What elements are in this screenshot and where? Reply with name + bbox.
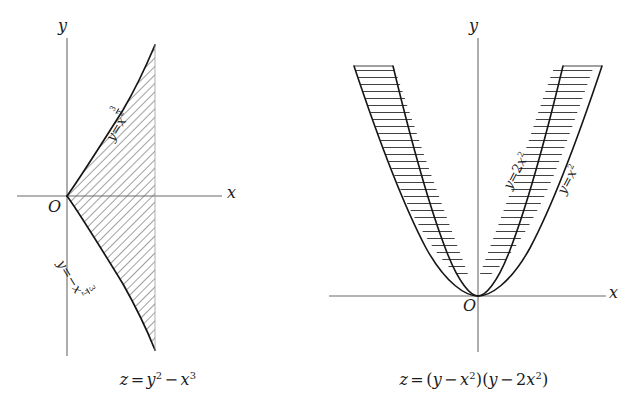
caption-coefficient: 2 [516, 370, 526, 389]
caption-term-2: x [460, 370, 469, 389]
caption-term-3: y [489, 370, 498, 389]
left-origin-label: O [48, 199, 61, 215]
caption-minus: − [162, 370, 180, 389]
caption-term-4: x [526, 370, 535, 389]
caption-exponent-2: 3 [190, 370, 197, 381]
left-x-axis-label: x [227, 185, 236, 201]
right-x-axis-label: x [609, 285, 618, 301]
right-plot-canvas [316, 0, 632, 418]
figure-pair: y x O y=x32 y=−x32 z=y2−x3 [0, 0, 632, 418]
right-shaded-region-left-branch [346, 60, 486, 290]
figure-left: y x O y=x32 y=−x32 z=y2−x3 [0, 0, 316, 418]
right-y-axis-label: y [469, 18, 478, 34]
right-origin-label: O [463, 298, 476, 314]
caption-close-paren-2: ) [542, 370, 548, 389]
caption-term-1: y [147, 370, 156, 389]
figure-right: y x O y=2x2 y=x2 z=(y−x2)(y−2x2) [316, 0, 632, 418]
left-figure-caption: z=y2−x3 [0, 372, 316, 388]
left-y-axis-label: y [58, 18, 67, 34]
left-shaded-region [60, 40, 165, 360]
caption-equals: = [408, 370, 426, 389]
caption-term-2: x [180, 370, 189, 389]
caption-term-1: y [433, 370, 442, 389]
right-figure-caption: z=(y−x2)(y−2x2) [316, 372, 632, 388]
caption-equals: = [128, 370, 146, 389]
right-shaded-region-right-branch [466, 60, 606, 290]
caption-minus-1: − [442, 370, 460, 389]
caption-minus-2: − [498, 370, 516, 389]
caption-lhs: z [399, 370, 408, 389]
